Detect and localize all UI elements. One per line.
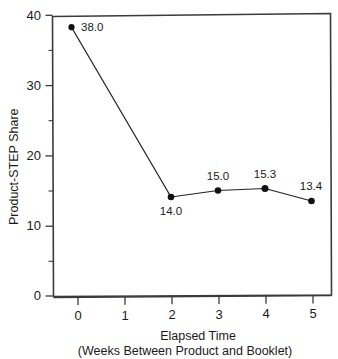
x-tick-label-3: 3	[215, 307, 222, 322]
data-label-1: 14.0	[160, 205, 182, 217]
data-label-0: 38.0	[81, 21, 103, 33]
data-point-4	[308, 198, 315, 205]
data-point-1	[168, 194, 175, 201]
y-axis-title: Product-STEP Share	[7, 108, 21, 225]
data-label-3: 15.3	[254, 168, 276, 180]
y-tick-label-20: 20	[27, 148, 41, 163]
x-axis-title-line2: (Weeks Between Product and Booklet)	[78, 344, 292, 358]
data-point-2	[215, 187, 222, 194]
chart-figure: 40 30 20 10 0 0 1 2 3 4 5	[0, 0, 338, 359]
data-point-3	[262, 185, 269, 192]
x-tick-label-4: 4	[262, 306, 269, 321]
y-tick-label-10: 10	[27, 218, 41, 233]
x-tick-label-1: 1	[121, 308, 128, 323]
data-point-0	[68, 24, 74, 30]
plot-frame	[53, 14, 332, 297]
x-tick-label-2: 2	[168, 307, 175, 322]
y-tick-label-30: 30	[27, 78, 41, 93]
line-chart-canvas: 40 30 20 10 0 0 1 2 3 4 5	[0, 0, 338, 359]
data-label-2: 15.0	[207, 170, 229, 182]
x-tick-label-0: 0	[74, 308, 81, 323]
y-tick-label-0: 0	[34, 288, 41, 303]
y-tick-label-40: 40	[27, 8, 41, 23]
data-label-4: 13.4	[300, 180, 323, 192]
x-tick-label-5: 5	[309, 306, 316, 321]
series-markers	[68, 24, 314, 204]
x-axis-title-line1: Elapsed Time	[160, 329, 236, 343]
